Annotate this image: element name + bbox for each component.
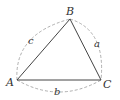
vertex-label-B: B [65,5,74,18]
vertex-label-C: C [103,78,112,91]
triangle-diagram: B A C c a b [0,0,120,100]
side-label-c: c [28,35,34,46]
side-label-b: b [54,86,60,97]
edge-AB [17,19,70,80]
vertex-label-A: A [5,76,14,89]
side-label-a: a [94,38,100,49]
edge-BC [70,19,101,80]
